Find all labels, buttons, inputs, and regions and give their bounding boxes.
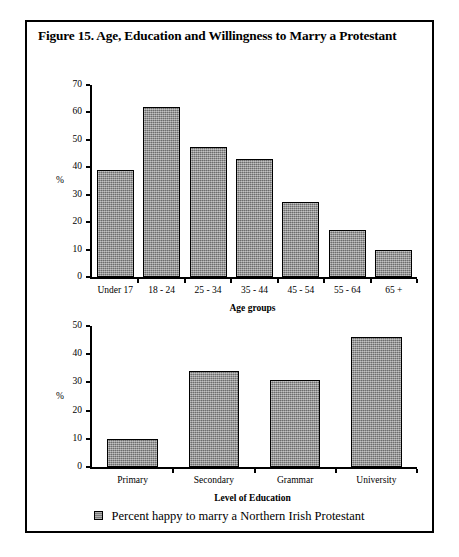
education-chart-x-tick: [172, 469, 174, 473]
age-chart-y-tick-label: 40: [50, 162, 82, 172]
education-chart-y-tick: [86, 353, 90, 355]
figure-title: Figure 15. Age, Education and Willingnes…: [38, 28, 428, 44]
age-chart-y-tick-label: 50: [50, 135, 82, 145]
education-chart-bar: [270, 380, 320, 467]
age-chart-x-tick: [230, 279, 232, 283]
age-chart-y-tick: [86, 166, 90, 168]
age-chart-y-tick: [86, 194, 90, 196]
age-chart-bar: [97, 170, 134, 277]
education-chart-y-tick-label: 10: [50, 434, 82, 444]
age-chart-x-tick: [370, 279, 372, 283]
age-chart-y-tick: [86, 276, 90, 278]
age-chart-y-tick-label: 10: [50, 245, 82, 255]
age-chart-y-tick-label: 60: [50, 107, 82, 117]
age-chart-y-tick: [86, 139, 90, 141]
age-chart-bar: [190, 147, 227, 277]
education-chart-y-tick: [86, 410, 90, 412]
age-chart-x-tick: [277, 279, 279, 283]
age-chart-y-tick-label: 20: [50, 217, 82, 227]
age-chart-y-tick: [86, 221, 90, 223]
education-chart-bar: [351, 337, 401, 467]
age-chart-bar: [236, 159, 273, 277]
education-chart-y-tick-label: 50: [50, 321, 82, 331]
education-chart-y-tick: [86, 466, 90, 468]
education-chart-y-axis-title: %: [32, 391, 64, 401]
age-chart-y-tick: [86, 111, 90, 113]
education-chart-x-tick-label: University: [315, 476, 437, 486]
education-chart-x-axis-title: Level of Education: [90, 493, 415, 503]
age-chart-bar: [143, 107, 180, 277]
age-chart-y-tick-label: 30: [50, 190, 82, 200]
education-chart-y-tick: [86, 381, 90, 383]
education-chart-y-tick: [86, 325, 90, 327]
education-chart-x-tick: [416, 469, 418, 473]
age-chart: 010203040506070Under 1718 - 2425 - 3435 …: [27, 56, 432, 306]
legend-label: Percent happy to marry a Northern Irish …: [111, 509, 364, 524]
age-chart-y-axis-title: %: [32, 175, 64, 185]
age-chart-plot-area: 010203040506070Under 1718 - 2425 - 3435 …: [90, 85, 415, 277]
education-chart: 01020304050PrimarySecondaryGrammarUniver…: [27, 310, 432, 506]
education-chart-bar: [107, 439, 157, 467]
age-chart-y-tick-label: 70: [50, 80, 82, 90]
age-chart-x-tick: [184, 279, 186, 283]
education-chart-y-tick-label: 20: [50, 406, 82, 416]
age-chart-x-tick: [323, 279, 325, 283]
education-chart-y-tick-label: 30: [50, 377, 82, 387]
education-chart-y-tick-label: 40: [50, 349, 82, 359]
age-chart-bar: [329, 230, 366, 277]
education-chart-plot-area: 01020304050PrimarySecondaryGrammarUniver…: [90, 326, 415, 467]
age-chart-x-tick-label: 65 +: [359, 286, 429, 296]
age-chart-x-tick: [416, 279, 418, 283]
legend-swatch-icon: [94, 511, 103, 520]
age-chart-x-tick: [137, 279, 139, 283]
age-chart-y-axis-line: [90, 85, 92, 279]
education-chart-y-tick: [86, 438, 90, 440]
education-chart-y-tick-label: 0: [50, 462, 82, 472]
legend: Percent happy to marry a Northern Irish …: [27, 508, 432, 524]
age-chart-y-tick-label: 0: [50, 272, 82, 282]
education-chart-x-tick: [254, 469, 256, 473]
age-chart-y-tick: [86, 84, 90, 86]
education-chart-y-axis-line: [90, 326, 92, 469]
education-chart-bar: [189, 371, 239, 467]
education-chart-x-tick: [335, 469, 337, 473]
age-chart-bar: [375, 250, 412, 277]
age-chart-y-tick: [86, 249, 90, 251]
age-chart-bar: [282, 202, 319, 277]
figure-frame: Figure 15. Age, Education and Willingnes…: [25, 20, 434, 533]
